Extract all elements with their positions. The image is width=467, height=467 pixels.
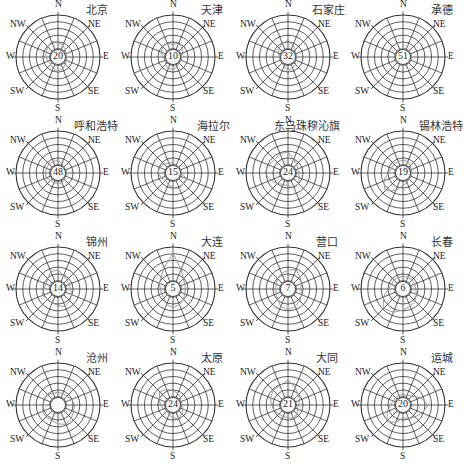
direction-label-e: E bbox=[448, 167, 454, 177]
direction-label-s: S bbox=[400, 219, 405, 229]
direction-label-ne: NE bbox=[88, 251, 101, 261]
direction-label-n: N bbox=[170, 347, 177, 357]
calm-frequency-value: 51 bbox=[393, 50, 413, 61]
wind-rose-panel: NNEESESSWWNW海拉尔15 bbox=[121, 120, 237, 236]
direction-label-nw: NW bbox=[125, 135, 141, 145]
direction-label-ne: NE bbox=[318, 19, 331, 29]
direction-label-se: SE bbox=[433, 202, 444, 212]
direction-label-w: W bbox=[351, 399, 360, 409]
direction-label-se: SE bbox=[318, 318, 329, 328]
direction-label-n: N bbox=[400, 347, 407, 357]
direction-label-s: S bbox=[170, 219, 175, 229]
station-name: 太原 bbox=[201, 349, 223, 365]
direction-label-se: SE bbox=[318, 434, 329, 444]
direction-label-ne: NE bbox=[88, 135, 101, 145]
direction-label-w: W bbox=[6, 167, 15, 177]
direction-label-se: SE bbox=[203, 434, 214, 444]
station-name: 大连 bbox=[201, 233, 223, 249]
direction-label-se: SE bbox=[88, 86, 99, 96]
direction-label-sw: SW bbox=[10, 86, 24, 96]
wind-rose-panel: NNEESESSWWNW呼和浩特48 bbox=[6, 120, 122, 236]
direction-label-w: W bbox=[236, 283, 245, 293]
direction-label-ne: NE bbox=[318, 251, 331, 261]
direction-label-e: E bbox=[333, 167, 339, 177]
calm-frequency-value: 21 bbox=[278, 398, 298, 409]
direction-label-w: W bbox=[351, 283, 360, 293]
direction-label-sw: SW bbox=[240, 86, 254, 96]
direction-label-nw: NW bbox=[125, 367, 141, 377]
wind-rose-panel: NNEESESSWWNW营口7 bbox=[236, 236, 352, 352]
direction-label-w: W bbox=[236, 167, 245, 177]
direction-label-se: SE bbox=[203, 86, 214, 96]
direction-label-s: S bbox=[400, 451, 405, 461]
direction-label-s: S bbox=[170, 103, 175, 113]
wind-rose-panel: NNEESESSWWNW锡林浩特19 bbox=[351, 120, 467, 236]
direction-label-se: SE bbox=[88, 202, 99, 212]
direction-label-nw: NW bbox=[125, 19, 141, 29]
direction-label-e: E bbox=[333, 283, 339, 293]
direction-label-w: W bbox=[236, 51, 245, 61]
station-name: 呼和浩特 bbox=[74, 117, 118, 133]
direction-label-e: E bbox=[333, 51, 339, 61]
wind-rose-panel: NNEESESSWWNW石家庄32 bbox=[236, 4, 352, 120]
direction-label-nw: NW bbox=[10, 135, 26, 145]
direction-label-nw: NW bbox=[125, 251, 141, 261]
calm-frequency-value: 20 bbox=[48, 50, 68, 61]
station-name: 锡林浩特 bbox=[419, 117, 463, 133]
direction-label-ne: NE bbox=[203, 367, 216, 377]
direction-label-e: E bbox=[103, 51, 109, 61]
station-name: 石家庄 bbox=[312, 1, 345, 17]
direction-label-se: SE bbox=[203, 318, 214, 328]
direction-label-ne: NE bbox=[203, 251, 216, 261]
direction-label-sw: SW bbox=[125, 86, 139, 96]
direction-label-nw: NW bbox=[10, 367, 26, 377]
station-name: 大同 bbox=[316, 349, 338, 365]
station-name: 承德 bbox=[431, 1, 453, 17]
direction-label-n: N bbox=[285, 0, 292, 9]
direction-label-w: W bbox=[351, 167, 360, 177]
direction-label-s: S bbox=[170, 335, 175, 345]
direction-label-e: E bbox=[448, 399, 454, 409]
direction-label-s: S bbox=[400, 335, 405, 345]
wind-rose-panel: NNEESESSWWNW长春6 bbox=[351, 236, 467, 352]
direction-label-nw: NW bbox=[240, 251, 256, 261]
calm-frequency-value: 24 bbox=[278, 166, 298, 177]
station-name: 海拉尔 bbox=[197, 117, 230, 133]
wind-rose-panel: NNEESESSWWNW运城20 bbox=[351, 352, 467, 467]
direction-label-sw: SW bbox=[10, 434, 24, 444]
wind-rose-panel: NNEESESSWWNW天津10 bbox=[121, 4, 237, 120]
direction-label-e: E bbox=[218, 167, 224, 177]
direction-label-ne: NE bbox=[433, 19, 446, 29]
direction-label-e: E bbox=[448, 283, 454, 293]
wind-rose-panel: NNEESESSWWNW大连5 bbox=[121, 236, 237, 352]
calm-frequency-value: 48 bbox=[48, 166, 68, 177]
direction-label-se: SE bbox=[88, 318, 99, 328]
wind-rose-panel: NNEESESSWWNW沧州 bbox=[6, 352, 122, 467]
direction-label-nw: NW bbox=[240, 19, 256, 29]
direction-label-n: N bbox=[55, 0, 62, 9]
direction-label-ne: NE bbox=[318, 135, 331, 145]
station-name: 沧州 bbox=[86, 349, 108, 365]
direction-label-nw: NW bbox=[355, 251, 371, 261]
direction-label-e: E bbox=[218, 51, 224, 61]
direction-label-n: N bbox=[55, 115, 62, 125]
direction-label-nw: NW bbox=[355, 367, 371, 377]
wind-rose-panel: NNEESESSWWNW东乌珠穆沁旗24 bbox=[236, 120, 352, 236]
direction-label-se: SE bbox=[433, 318, 444, 328]
direction-label-ne: NE bbox=[318, 367, 331, 377]
direction-label-e: E bbox=[103, 167, 109, 177]
direction-label-n: N bbox=[400, 115, 407, 125]
direction-label-n: N bbox=[55, 347, 62, 357]
direction-label-w: W bbox=[236, 399, 245, 409]
calm-frequency-value: 24 bbox=[163, 398, 183, 409]
direction-label-sw: SW bbox=[125, 434, 139, 444]
direction-label-s: S bbox=[55, 103, 60, 113]
calm-frequency-value: 14 bbox=[48, 282, 68, 293]
calm-frequency-value: 5 bbox=[163, 282, 183, 293]
direction-label-w: W bbox=[121, 167, 130, 177]
direction-label-sw: SW bbox=[240, 434, 254, 444]
station-name: 北京 bbox=[86, 1, 108, 17]
direction-label-n: N bbox=[285, 347, 292, 357]
direction-label-sw: SW bbox=[125, 318, 139, 328]
wind-rose-panel: NNEESESSWWNW北京20 bbox=[6, 4, 122, 120]
